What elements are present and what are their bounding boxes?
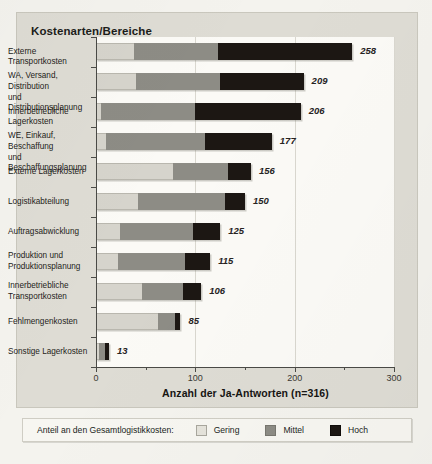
category-label-line: WA, Versand, Distribution — [8, 71, 58, 91]
category-label: Logistikabteilung — [8, 197, 94, 208]
y-axis — [96, 37, 97, 367]
plot-area: 2582092061771561501251151068513 — [96, 37, 394, 367]
bar-segment-mid — [118, 253, 186, 270]
bar-row: 106 — [96, 277, 394, 307]
category-label-line: Externe Lagerkosten — [8, 167, 84, 176]
x-tick-label: 100 — [188, 373, 203, 383]
x-axis-tick — [295, 367, 296, 372]
legend-item-high[interactable]: Hoch — [330, 425, 368, 436]
category-label: Externe Transportkosten — [8, 47, 94, 69]
bar-value-label: 125 — [228, 225, 244, 236]
legend-label: Hoch — [348, 425, 368, 435]
x-axis-minor-tick — [344, 367, 345, 370]
page-title: Kostenarten/Bereiche — [31, 25, 152, 37]
category-label-line: Auftragsabwicklung — [8, 227, 79, 236]
category-label-line: Innerbetriebliche — [8, 281, 69, 290]
stacked-bar[interactable] — [96, 313, 180, 330]
bar-segment-high — [175, 313, 180, 330]
stacked-bar[interactable] — [96, 103, 301, 120]
stacked-bar[interactable] — [96, 223, 220, 240]
bar-value-label: 106 — [209, 285, 225, 296]
bar-segment-mid — [106, 133, 205, 150]
category-label: Externe Lagerkosten — [8, 167, 94, 178]
category-label-line: Produktion und — [8, 251, 63, 260]
bar-segment-mid — [158, 313, 176, 330]
bar-row: 209 — [96, 67, 394, 97]
stacked-bar[interactable] — [96, 343, 109, 360]
bar-value-label: 150 — [253, 195, 269, 206]
legend-swatch-mid — [265, 425, 276, 436]
bar-segment-mid — [142, 283, 184, 300]
bar-value-label: 209 — [312, 75, 328, 86]
category-label-line: Innerbetriebliche Lagerkosten — [8, 107, 69, 127]
stacked-bar[interactable] — [96, 193, 245, 210]
bar-segment-low — [96, 223, 120, 240]
x-tick-label: 200 — [287, 373, 302, 383]
category-label-line: Transportkosten — [8, 292, 67, 301]
bar-segment-high — [218, 43, 352, 60]
bar-row: 13 — [96, 337, 394, 367]
category-label-line: WE, Einkauf, Beschaffung — [8, 131, 55, 151]
bar-segment-low — [96, 313, 158, 330]
bar-segment-high — [228, 163, 251, 180]
bar-row: 125 — [96, 217, 394, 247]
x-axis-minor-tick — [146, 367, 147, 370]
x-tick-label: 0 — [93, 373, 98, 383]
x-axis-minor-tick — [245, 367, 246, 370]
bar-value-label: 115 — [218, 255, 233, 266]
bar-segment-high — [205, 133, 272, 150]
x-axis-tick — [96, 367, 97, 372]
x-axis — [96, 367, 395, 368]
category-label-line: Produktionsplanung — [8, 262, 80, 271]
category-label-line: Logistikabteilung — [8, 197, 69, 206]
stacked-bar[interactable] — [96, 73, 304, 90]
bar-segment-low — [96, 73, 136, 90]
bar-segment-mid — [138, 193, 225, 210]
bar-segment-high — [183, 283, 201, 300]
category-label-line: Externe Transportkosten — [8, 47, 67, 67]
bar-segment-high — [193, 223, 220, 240]
category-label-line: Fehlmengenkosten — [8, 317, 78, 326]
legend: Anteil an den Gesamtlogistikkosten: Geri… — [22, 418, 412, 442]
legend-item-low[interactable]: Gering — [196, 425, 240, 436]
stacked-bar[interactable] — [96, 43, 352, 60]
stacked-bar[interactable] — [96, 283, 201, 300]
stacked-bar[interactable] — [96, 163, 251, 180]
bar-segment-high — [105, 343, 109, 360]
legend-swatch-high — [330, 425, 341, 436]
bar-row: 177 — [96, 127, 394, 157]
chart-page: Kostenarten/Bereiche 2582092061771561501… — [0, 0, 432, 464]
x-axis-tick — [195, 367, 196, 372]
category-label: Produktion undProduktionsplanung — [8, 251, 94, 273]
x-tick-label: 300 — [386, 373, 401, 383]
bar-row: 85 — [96, 307, 394, 337]
bar-row: 156 — [96, 157, 394, 187]
bar-segment-mid — [136, 73, 220, 90]
bar-segment-low — [96, 133, 106, 150]
bar-row: 115 — [96, 247, 394, 277]
bar-row: 150 — [96, 187, 394, 217]
legend-label: Gering — [214, 425, 240, 435]
bar-value-label: 85 — [188, 315, 199, 326]
gridline-300 — [394, 37, 395, 367]
bar-row: 258 — [96, 37, 394, 67]
stacked-bar[interactable] — [96, 253, 210, 270]
bar-rows: 2582092061771561501251151068513 — [96, 37, 394, 367]
x-axis-tick — [394, 367, 395, 372]
bar-row: 206 — [96, 97, 394, 127]
stacked-bar[interactable] — [96, 133, 272, 150]
bar-segment-high — [195, 103, 300, 120]
legend-items: GeringMittelHoch — [196, 425, 394, 436]
category-label: Innerbetriebliche Lagerkosten — [8, 107, 94, 129]
bar-segment-low — [96, 163, 173, 180]
category-label: InnerbetrieblicheTransportkosten — [8, 281, 94, 303]
bar-segment-mid — [134, 43, 218, 60]
bar-value-label: 258 — [360, 45, 376, 56]
bar-segment-low — [96, 43, 134, 60]
legend-title: Anteil an den Gesamtlogistikkosten: — [37, 425, 174, 435]
category-label: Auftragsabwicklung — [8, 227, 94, 238]
legend-item-mid[interactable]: Mittel — [265, 425, 304, 436]
bar-segment-high — [185, 253, 210, 270]
category-label: Sonstige Lagerkosten — [8, 347, 94, 358]
bar-segment-high — [220, 73, 303, 90]
